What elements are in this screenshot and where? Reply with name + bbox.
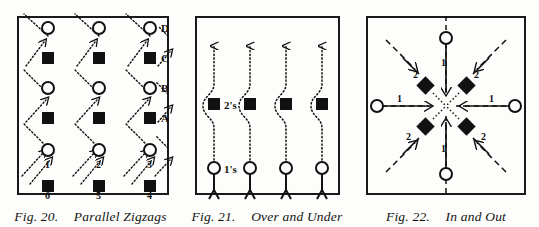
- figure-21-drawing: 2's 1's: [181, 0, 353, 205]
- figure-20-label-1: 1: [45, 159, 50, 170]
- figure-20-caption: Fig. 20. Parallel Zigzags: [0, 209, 181, 225]
- figure-20-drawing: D C B A 1 2 3 6 5 4: [0, 0, 181, 200]
- figure-21-label-twos: 2's: [224, 99, 238, 111]
- figure-22: 1 1 1 1 2 2 2 2 Fig. 22. In and Out: [353, 0, 539, 227]
- figure-sheet: D C B A 1 2 3 6 5 4 Fig. 20. Parallel Zi…: [0, 0, 539, 227]
- figure-21-caption-title: Over and Under: [251, 209, 342, 224]
- figure-20-caption-number: Fig. 20.: [14, 209, 58, 224]
- figure-22-caption: Fig. 22. In and Out: [353, 209, 539, 225]
- figure-22-drawing: 1 1 1 1 2 2 2 2: [353, 0, 539, 200]
- figure-20-label-6: 6: [45, 190, 50, 201]
- figure-22-label-2-bottomright: 2: [481, 131, 486, 142]
- figure-22-label-1-left: 1: [397, 93, 402, 104]
- figure-22-label-1-right: 1: [489, 93, 494, 104]
- figure-22-label-2-topleft: 2: [413, 69, 418, 80]
- figure-20-label-d: D: [161, 22, 169, 34]
- figure-22-caption-number: Fig. 22.: [386, 209, 430, 224]
- figure-21-caption-number: Fig. 21.: [192, 209, 236, 224]
- figure-20-label-4: 4: [147, 190, 152, 201]
- figure-22-label-1-bottom: 1: [441, 143, 446, 154]
- figure-20-label-c: C: [161, 52, 169, 64]
- figure-22-label-1-top: 1: [441, 57, 446, 68]
- figure-22-caption-title: In and Out: [446, 209, 507, 224]
- figure-20-caption-title: Parallel Zigzags: [74, 209, 167, 224]
- figure-22-label-2-topright: 2: [474, 69, 479, 80]
- figure-20-label-3: 3: [147, 159, 152, 170]
- figure-20: D C B A 1 2 3 6 5 4 Fig. 20. Parallel Zi…: [0, 0, 181, 227]
- figure-20-label-a: A: [161, 112, 169, 124]
- figure-21-label-ones: 1's: [224, 163, 238, 175]
- figure-20-label-b: B: [161, 82, 169, 94]
- figure-22-label-2-bottomleft: 2: [406, 131, 411, 142]
- figure-20-label-2: 2: [96, 159, 101, 170]
- figure-20-label-5: 5: [96, 190, 101, 201]
- figure-21: 2's 1's Fig. 21. Over and Under: [181, 0, 353, 227]
- figure-21-caption: Fig. 21. Over and Under: [181, 209, 353, 225]
